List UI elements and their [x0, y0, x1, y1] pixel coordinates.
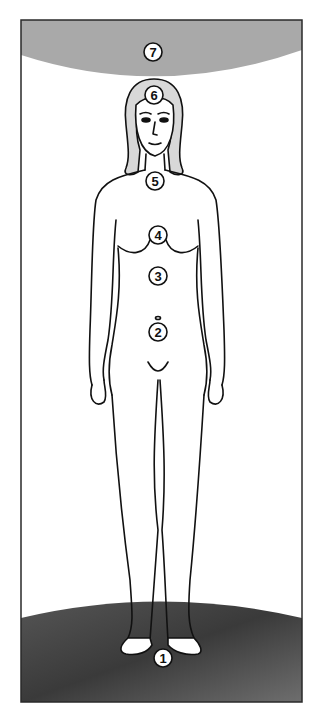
svg-text:3: 3: [154, 269, 161, 284]
chakra-marker-1: 1: [154, 649, 172, 667]
chakra-marker-2: 2: [149, 323, 167, 341]
svg-text:5: 5: [151, 174, 158, 189]
left-eye: [142, 118, 150, 122]
svg-text:6: 6: [150, 88, 157, 103]
svg-text:4: 4: [154, 228, 162, 243]
chakra-diagram: 1 2 3 4 5 6 7: [0, 0, 319, 722]
chakra-marker-7: 7: [144, 43, 162, 61]
chakra-marker-5: 5: [146, 172, 164, 190]
svg-text:7: 7: [149, 45, 156, 60]
svg-text:1: 1: [159, 651, 166, 666]
chakra-marker-4: 4: [149, 226, 167, 244]
chakra-marker-3: 3: [149, 267, 167, 285]
chakra-marker-6: 6: [145, 86, 163, 104]
svg-text:2: 2: [154, 325, 161, 340]
right-eye: [160, 118, 168, 122]
